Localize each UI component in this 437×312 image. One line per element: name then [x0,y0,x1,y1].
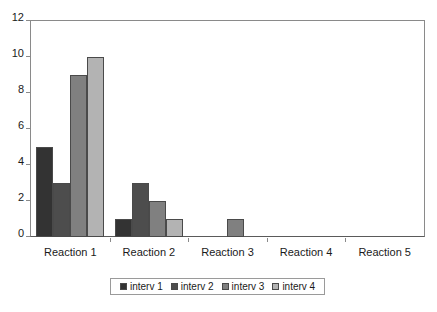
bar-group [345,21,424,237]
bar [70,75,87,237]
legend-item[interactable]: interv 2 [171,281,214,292]
legend-swatch-icon [222,283,229,290]
bar [227,219,244,237]
chart-legend: interv 1interv 2interv 3interv 4 [110,278,325,295]
legend-label: interv 2 [181,281,214,292]
bar [149,201,166,237]
bar [115,219,132,237]
bar-group [267,21,346,237]
y-axis-tick-label: 6 [18,120,24,131]
x-axis-tick-mark [188,238,189,242]
y-axis-tick-label: 8 [18,84,24,95]
bar [87,57,104,237]
x-axis-category-label: Reaction 3 [188,245,267,261]
x-axis-tick-mark [267,238,268,242]
x-axis-category-label: Reaction 4 [267,245,346,261]
y-axis-tick-label: 4 [18,156,24,167]
legend-label: interv 1 [130,281,163,292]
bar-group [31,21,110,237]
legend-swatch-icon [272,283,279,290]
y-axis-tick-label: 0 [18,228,24,239]
bar [53,183,70,237]
bar [166,219,183,237]
x-axis-labels: Reaction 1Reaction 2Reaction 3Reaction 4… [31,245,424,261]
legend-item[interactable]: interv 4 [272,281,315,292]
x-axis-tick-mark [345,238,346,242]
bar [132,183,149,237]
legend-item[interactable]: interv 3 [222,281,265,292]
x-axis-category-label: Reaction 1 [31,245,110,261]
x-axis-ticks [31,238,424,243]
legend-swatch-icon [171,283,178,290]
legend-label: interv 4 [282,281,315,292]
y-axis: 024681012 [0,20,30,237]
bar-chart: 024681012 Reaction 1Reaction 2Reaction 3… [0,0,437,312]
plot-area [31,21,424,237]
x-axis-tick-mark [110,238,111,242]
legend-swatch-icon [120,283,127,290]
y-axis-tick-label: 12 [12,12,24,23]
bar [36,147,53,237]
y-axis-tick-label: 10 [12,48,24,59]
legend-label: interv 3 [232,281,265,292]
x-axis-category-label: Reaction 2 [110,245,189,261]
bar-group [110,21,189,237]
bar-group [188,21,267,237]
x-axis-category-label: Reaction 5 [345,245,424,261]
legend-item[interactable]: interv 1 [120,281,163,292]
y-axis-tick-label: 2 [18,192,24,203]
